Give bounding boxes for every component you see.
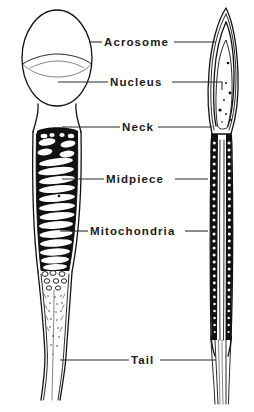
midpiece-label-text: Midpiece [106, 173, 164, 185]
acrosome-label-text: Acrosome [104, 36, 169, 48]
right-axial-filament-right [224, 140, 225, 340]
mitochondria-label-text: Mitochondria [90, 225, 175, 237]
tail-label-text: Tail [131, 354, 154, 366]
nucleus-label-text: Nucleus [110, 76, 162, 88]
neck-label-text: Neck [122, 121, 154, 133]
sperm-diagram-page: Acrosome Nucleus Neck Midpiece [0, 0, 254, 412]
diagram-canvas: Acrosome Nucleus Neck Midpiece [0, 0, 254, 412]
